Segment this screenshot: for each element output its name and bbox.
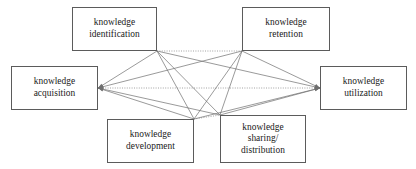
- node-knowledge-retention[interactable]: knowledge retention: [242, 7, 330, 51]
- node-label: knowledge utilization: [341, 76, 387, 99]
- edge-identification-sharing: [157, 51, 220, 115]
- node-knowledge-utilization[interactable]: knowledge utilization: [320, 66, 407, 110]
- node-label: knowledge development: [124, 129, 177, 152]
- node-knowledge-acquisition[interactable]: knowledge acquisition: [11, 66, 98, 110]
- edge-retention-utilization: [242, 51, 320, 88]
- node-label: knowledge retention: [263, 17, 309, 40]
- edge-sharing-utilization: [220, 88, 320, 115]
- edge-acquisition-retention: [98, 51, 242, 88]
- knowledge-management-diagram: knowledge identification knowledge reten…: [0, 0, 416, 169]
- node-label: knowledge sharing/ distribution: [239, 122, 287, 157]
- node-knowledge-development[interactable]: knowledge development: [107, 119, 194, 163]
- edge-acquisition-identification: [98, 51, 157, 88]
- edge-acquisition-sharing: [98, 88, 220, 115]
- node-knowledge-identification[interactable]: knowledge identification: [72, 7, 157, 51]
- node-label: knowledge identification: [87, 17, 142, 40]
- edge-retention-sharing: [220, 51, 242, 115]
- node-knowledge-sharing-distribution[interactable]: knowledge sharing/ distribution: [220, 115, 306, 163]
- node-label: knowledge acquisition: [32, 76, 78, 99]
